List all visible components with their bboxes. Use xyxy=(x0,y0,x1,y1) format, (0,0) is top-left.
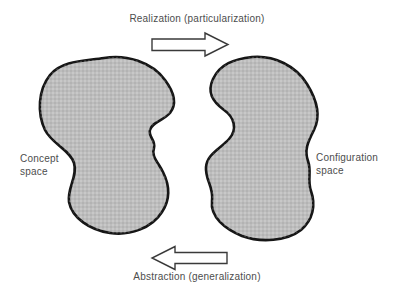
concept-space-blob xyxy=(40,57,174,234)
diagram-graphics xyxy=(0,0,394,294)
realization-right-arrow-icon xyxy=(152,33,228,56)
abstraction-label: Abstraction (generalization) xyxy=(0,270,394,283)
configuration-space-blob xyxy=(206,57,318,240)
concept-space-label: Concept space xyxy=(20,152,76,178)
diagram-canvas: Realization (particularization) Concept … xyxy=(0,0,394,294)
configuration-space-label: Configuration space xyxy=(316,151,394,177)
abstraction-left-arrow-icon xyxy=(152,247,227,270)
realization-label: Realization (particularization) xyxy=(0,12,394,25)
